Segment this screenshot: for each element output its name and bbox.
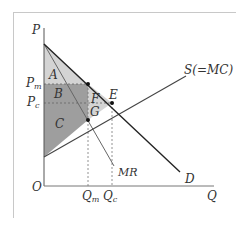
x-axis-label: Q bbox=[207, 190, 217, 202]
pc-label: Pc bbox=[27, 96, 40, 110]
point-e-label: E bbox=[109, 89, 118, 101]
region-b-label: B bbox=[54, 88, 63, 100]
demand-label: D bbox=[185, 173, 195, 185]
origin-label: O bbox=[32, 181, 42, 193]
y-axis-label: P bbox=[32, 24, 40, 36]
qm-label: Qm bbox=[82, 190, 99, 204]
region-f-label: F bbox=[91, 93, 99, 105]
mr-label: MR bbox=[118, 167, 138, 178]
supply-label: S(=MC) bbox=[184, 64, 233, 76]
region-a-label: A bbox=[49, 69, 58, 81]
region-c-label: C bbox=[55, 118, 64, 130]
pm-label: Pm bbox=[26, 77, 42, 91]
monopoly-point bbox=[86, 82, 90, 86]
region-c bbox=[44, 103, 88, 157]
qc-label: Qc bbox=[103, 190, 117, 204]
region-b bbox=[44, 84, 88, 103]
region-g-label: G bbox=[90, 106, 100, 118]
